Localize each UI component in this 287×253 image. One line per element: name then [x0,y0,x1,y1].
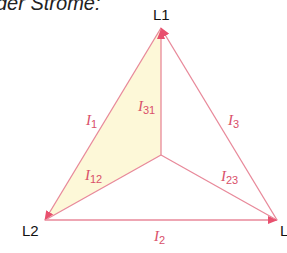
node-l3: L [280,222,287,239]
phasor-diagram [0,0,287,253]
label-i3: I3 [228,112,239,130]
label-i23: I23 [221,168,238,186]
node-l2: L2 [22,222,39,239]
node-l1: L1 [153,6,170,23]
label-i1: I1 [86,112,97,130]
vector-i23 [161,155,275,219]
label-i2: I2 [154,228,165,246]
label-i12: I12 [85,167,102,185]
vector-i3 [161,28,277,220]
label-i31: I31 [138,98,155,116]
